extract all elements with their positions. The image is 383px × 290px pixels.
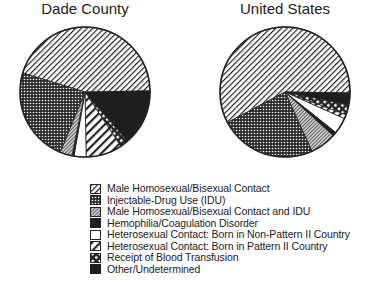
legend-item: Heterosexual Contact: Born in Non-Patter… [90,229,350,241]
legend-swatch-icon [90,218,101,228]
legend-label: Heterosexual Contact: Born in Non-Patter… [107,229,350,240]
legend-label: Heterosexual Contact: Born in Pattern II… [107,241,327,252]
legend-swatch-icon [90,253,101,263]
legend-item: Receipt of Blood Transfusion [90,252,350,264]
legend-swatch-icon [90,184,101,194]
legend-label: Hemophilia/Coagulation Disorder [107,218,258,229]
pie-chart-united-states [217,24,353,160]
legend-swatch-icon [90,264,101,274]
legend-swatch-icon [90,230,101,240]
legend-item: Other/Undetermined [90,264,350,276]
legend-item: Male Homosexual/Bisexual Contact [90,183,350,195]
chart-title-dade-county: Dade County [0,0,170,17]
legend-label: Male Homosexual/Bisexual Contact [107,183,270,194]
legend-swatch-icon [90,207,101,217]
legend-label: Other/Undetermined [107,264,200,275]
legend-swatch-icon [90,195,101,205]
legend-label: Receipt of Blood Transfusion [107,252,238,263]
legend: Male Homosexual/Bisexual ContactInjectab… [90,183,350,275]
legend-item: Male Homosexual/Bisexual Contact and IDU [90,206,350,218]
legend-label: Male Homosexual/Bisexual Contact and IDU [107,206,310,217]
chart-title-united-states: United States [200,0,370,17]
legend-label: Injectable-Drug Use (IDU) [107,195,225,206]
pie-chart-dade-county [17,24,153,160]
legend-swatch-icon [90,241,101,251]
